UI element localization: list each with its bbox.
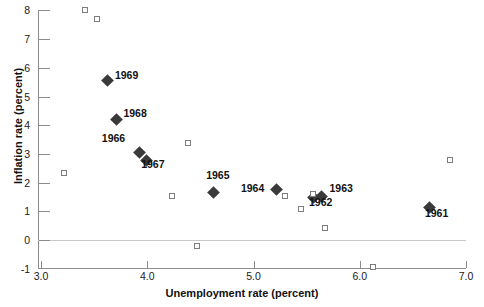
- data-point-label: 1965: [206, 170, 229, 181]
- data-point-label: 1962: [309, 197, 332, 208]
- data-point-diamond: [271, 183, 284, 196]
- x-tick-mark: [360, 261, 361, 268]
- data-point-square: [298, 206, 304, 212]
- data-point-diamond: [110, 113, 123, 126]
- x-tick-label: 5.0: [234, 271, 274, 282]
- data-point-square: [282, 193, 288, 199]
- data-point-diamond: [207, 186, 220, 199]
- x-tick-label: 7.0: [446, 271, 484, 282]
- data-point-label: 1969: [115, 70, 138, 81]
- data-point-square: [322, 225, 328, 231]
- data-point-label: 1968: [123, 108, 146, 119]
- scatter-chart: 876543210-1 3.04.05.06.07.0 196919681966…: [0, 0, 484, 307]
- x-tick-mark: [254, 261, 255, 268]
- x-tick-mark: [147, 261, 148, 268]
- x-tick-label: 6.0: [340, 271, 380, 282]
- y-tick-mark: [39, 97, 50, 98]
- data-point-square: [370, 264, 376, 270]
- data-point-label: 1966: [102, 133, 125, 144]
- data-point-label: 1967: [141, 159, 164, 170]
- x-axis-line: [38, 268, 466, 269]
- zero-reference-line: [38, 240, 466, 241]
- data-point-square: [194, 243, 200, 249]
- y-tick-label: 8: [8, 5, 30, 15]
- x-tick-mark: [41, 261, 42, 268]
- data-point-label: 1964: [241, 183, 264, 194]
- data-point-square: [82, 7, 88, 13]
- data-point-label: 1961: [425, 208, 448, 219]
- data-point-square: [185, 140, 191, 146]
- x-axis-title: Unemployment rate (percent): [0, 287, 484, 299]
- y-tick-mark: [39, 183, 50, 184]
- y-tick-label: 7: [8, 34, 30, 44]
- data-point-diamond: [102, 74, 115, 87]
- data-point-square: [310, 191, 316, 197]
- y-tick-label: 1: [8, 206, 30, 216]
- y-tick-label: 0: [8, 235, 30, 245]
- data-point-square: [169, 193, 175, 199]
- y-tick-mark: [39, 211, 50, 212]
- y-tick-mark: [39, 68, 50, 69]
- y-tick-mark: [39, 125, 50, 126]
- plot-area: 876543210-1 3.04.05.06.07.0 196919681966…: [0, 0, 484, 307]
- y-tick-mark: [39, 154, 50, 155]
- data-point-square: [61, 170, 67, 176]
- y-axis-line: [38, 10, 39, 269]
- x-tick-label: 4.0: [127, 271, 167, 282]
- data-point-square: [447, 157, 453, 163]
- y-tick-mark: [39, 39, 50, 40]
- y-axis-title: Inflation rate (percent): [12, 56, 24, 196]
- data-point-label: 1963: [330, 183, 353, 194]
- y-tick-mark: [39, 240, 50, 241]
- data-point-square: [94, 16, 100, 22]
- x-tick-label: 3.0: [21, 271, 61, 282]
- y-tick-mark: [39, 10, 50, 11]
- x-tick-mark: [466, 261, 467, 268]
